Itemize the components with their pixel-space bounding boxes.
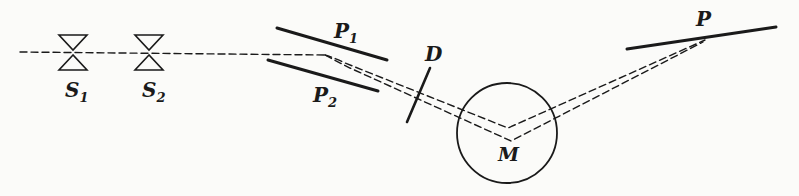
slit-s1-top-jaw — [59, 35, 87, 50]
slit-s1 — [59, 35, 87, 70]
apparatus-diagram: S1 S2 P1 P2 D M P — [0, 0, 799, 196]
slit-s2-bottom-jaw — [135, 55, 163, 70]
label-p: P — [695, 7, 712, 31]
slit-s2 — [135, 35, 163, 70]
label-p2: P2 — [312, 83, 337, 110]
slit-s2-top-jaw — [135, 35, 163, 50]
label-s1: S1 — [65, 78, 89, 105]
slit-s1-bottom-jaw — [59, 55, 87, 70]
label-d: D — [424, 42, 443, 66]
label-m: M — [497, 143, 520, 165]
label-s2: S2 — [142, 78, 166, 105]
plate-p1 — [277, 28, 387, 60]
incoming-beam — [20, 52, 325, 55]
beam-lower — [325, 42, 703, 141]
region-m — [457, 83, 557, 183]
label-p1: P1 — [333, 19, 358, 46]
